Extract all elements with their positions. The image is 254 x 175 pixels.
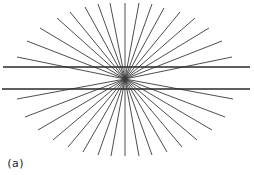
ray-line [25, 79, 125, 117]
figure-label: (a) [6, 157, 24, 170]
ray-line [125, 41, 222, 79]
ray-line [85, 7, 125, 79]
ray-line [40, 28, 125, 79]
radiating-rays [17, 3, 233, 156]
hering-illusion-figure [0, 0, 254, 175]
ray-line [125, 18, 195, 79]
ray-line [27, 41, 125, 79]
ray-line [17, 57, 125, 79]
ray-line [70, 12, 125, 79]
ray-line [125, 28, 209, 79]
ray-line [125, 57, 232, 79]
ray-line [125, 79, 225, 117]
ray-line [125, 8, 164, 79]
